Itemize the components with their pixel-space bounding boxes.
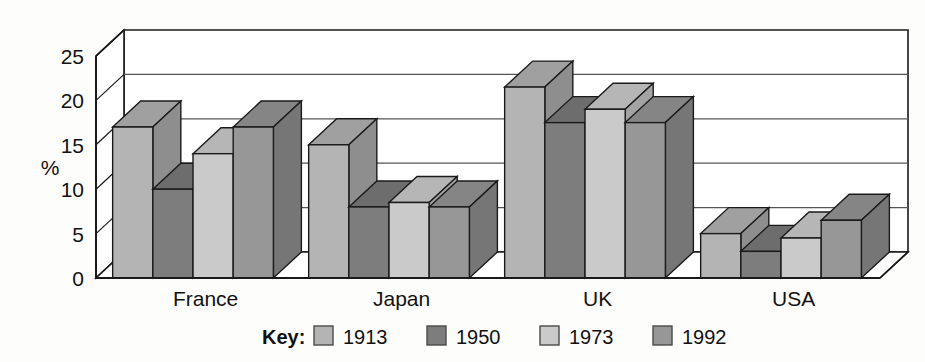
bar-front-face xyxy=(153,189,193,278)
y-axis-title-text: % xyxy=(41,156,60,179)
y-tick-label-25: 25 xyxy=(61,45,84,68)
legend-label-1950: 1950 xyxy=(456,326,501,348)
bar-front-face xyxy=(625,123,665,278)
bar-front-face xyxy=(781,238,821,278)
bar-chart-svg: 0510152025%FranceJapanUKUSAKey:191319501… xyxy=(0,0,925,362)
legend-item-1992[interactable]: 1992 xyxy=(653,326,727,348)
x-category-label-japan: Japan xyxy=(373,287,430,310)
legend-swatch-1973 xyxy=(540,326,559,345)
legend-item-1973[interactable]: 1973 xyxy=(540,326,614,348)
bar-front-face xyxy=(349,207,389,278)
bar-front-face xyxy=(585,109,625,278)
bar-france-1992 xyxy=(233,101,301,278)
x-category-label-usa: USA xyxy=(772,287,815,310)
bar-front-face xyxy=(821,220,861,278)
bar-front-face xyxy=(309,145,349,278)
x-category-label-france: France xyxy=(173,287,238,310)
legend-key-label: Key: xyxy=(262,326,305,348)
legend-label-1973: 1973 xyxy=(569,326,614,348)
y-tick-label-10: 10 xyxy=(61,178,84,201)
y-tick-label-20: 20 xyxy=(61,89,84,112)
legend-item-1950[interactable]: 1950 xyxy=(427,326,501,348)
bar-front-face xyxy=(113,127,153,278)
legend-swatch-1950 xyxy=(427,326,446,345)
x-category-labels: FranceJapanUKUSA xyxy=(173,287,815,310)
bar-front-face xyxy=(193,154,233,278)
bar-front-face xyxy=(505,87,545,278)
legend-swatch-1913 xyxy=(314,326,333,345)
bar-front-face xyxy=(389,203,429,278)
legend-label-1913: 1913 xyxy=(343,326,388,348)
bar-front-face xyxy=(429,207,469,278)
legend-label-1992: 1992 xyxy=(682,326,727,348)
legend-item-1913[interactable]: 1913 xyxy=(314,326,388,348)
bar-front-face xyxy=(741,251,781,278)
bar-side-face xyxy=(665,97,693,278)
bar-side-face xyxy=(273,101,301,278)
y-tick-label-0: 0 xyxy=(72,267,84,290)
bar-front-face xyxy=(545,123,585,278)
y-tick-labels: 0510152025 xyxy=(61,45,84,290)
bar-front-face xyxy=(233,127,273,278)
bar-uk-1992 xyxy=(625,97,693,278)
y-tick-label-5: 5 xyxy=(72,223,84,246)
chart-container: 0510152025%FranceJapanUKUSAKey:191319501… xyxy=(0,0,925,362)
legend: Key:1913195019731992 xyxy=(262,326,727,348)
bar-front-face xyxy=(701,234,741,278)
legend-swatch-1992 xyxy=(653,326,672,345)
x-category-label-uk: UK xyxy=(583,287,612,310)
y-axis-title: % xyxy=(41,156,60,179)
y-tick-label-15: 15 xyxy=(61,134,84,157)
